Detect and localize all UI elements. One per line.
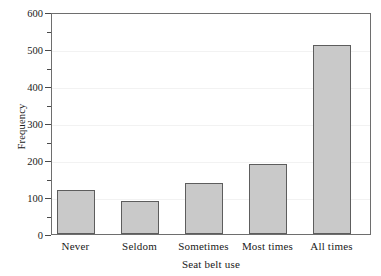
y-axis-major-tick — [45, 13, 51, 14]
x-axis-tick-label: Sometimes — [172, 240, 236, 252]
x-axis-tick-label: Seldom — [108, 240, 172, 252]
x-axis-tick-label: Never — [44, 240, 108, 252]
y-axis-minor-tick — [47, 106, 51, 107]
y-axis-title: Frequency — [7, 88, 21, 166]
y-axis-major-tick — [45, 50, 51, 51]
y-axis-minor-tick — [47, 69, 51, 70]
y-axis-major-tick — [45, 87, 51, 88]
bar-chart-figure: 0100200300400500600 Frequency Seat belt … — [0, 0, 381, 276]
bar — [313, 45, 351, 234]
y-axis-major-tick — [45, 235, 51, 236]
y-axis-tick-label: 100 — [0, 193, 43, 204]
y-axis-tick-label: 500 — [0, 45, 43, 56]
x-axis-tick-label: All times — [300, 240, 364, 252]
y-axis-major-tick — [45, 198, 51, 199]
y-axis-tick-label: 600 — [0, 8, 43, 19]
x-axis-title: Seat belt use — [51, 258, 371, 270]
bars-layer — [52, 14, 370, 234]
y-axis-title-text: Frequency — [16, 88, 27, 166]
y-axis-minor-tick — [47, 217, 51, 218]
bar — [185, 183, 223, 234]
bar — [121, 201, 159, 234]
y-axis-minor-tick — [47, 180, 51, 181]
bar — [57, 190, 95, 234]
plot-area — [51, 13, 371, 235]
y-axis-tick-label: 0 — [0, 230, 43, 241]
y-axis-minor-tick — [47, 32, 51, 33]
x-axis-tick-label: Most times — [236, 240, 300, 252]
bar — [249, 164, 287, 234]
y-axis-major-tick — [45, 161, 51, 162]
y-axis-major-tick — [45, 124, 51, 125]
y-axis-minor-tick — [47, 143, 51, 144]
